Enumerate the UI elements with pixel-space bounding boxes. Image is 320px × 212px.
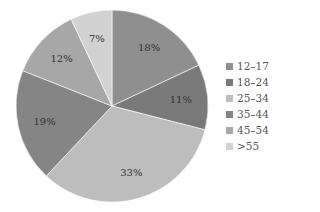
- legend-item: 25–34: [226, 90, 269, 106]
- legend-label: 35–44: [237, 108, 269, 120]
- legend-label: 45–54: [237, 124, 269, 136]
- slice-label: 33%: [120, 167, 142, 178]
- slice-label: 11%: [170, 94, 192, 105]
- legend-swatch: [226, 143, 233, 150]
- slice-label: 18%: [138, 42, 160, 53]
- legend-item: >55: [226, 138, 269, 154]
- legend-item: 35–44: [226, 106, 269, 122]
- legend-label: 18–24: [237, 76, 269, 88]
- legend-label: 25–34: [237, 92, 269, 104]
- legend-swatch: [226, 79, 233, 86]
- legend-swatch: [226, 63, 233, 70]
- legend-swatch: [226, 111, 233, 118]
- slice-label: 12%: [50, 53, 72, 64]
- legend-item: 45–54: [226, 122, 269, 138]
- legend: 12–17 18–24 25–34 35–44 45–54 >55: [226, 58, 269, 154]
- legend-swatch: [226, 127, 233, 134]
- legend-swatch: [226, 95, 233, 102]
- legend-label: >55: [237, 140, 259, 152]
- slice-label: 7%: [89, 33, 105, 44]
- slice-label: 19%: [33, 116, 55, 127]
- legend-label: 12–17: [237, 60, 269, 72]
- legend-item: 12–17: [226, 58, 269, 74]
- legend-item: 18–24: [226, 74, 269, 90]
